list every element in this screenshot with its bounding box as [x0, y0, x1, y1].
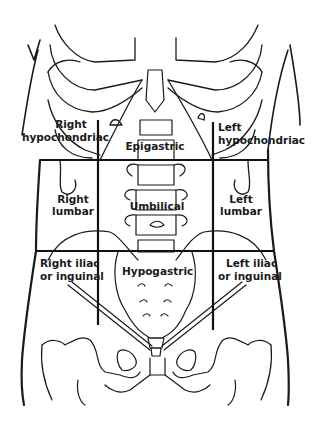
label-right-iliac-line1: Right iliac	[40, 257, 99, 269]
abdominal-regions-diagram: Right hypochondriac Epigastric Left hypo…	[0, 0, 313, 430]
ribcage-right	[168, 25, 262, 194]
label-right-iliac-line2: or inguinal	[40, 270, 104, 282]
ribcage-left	[48, 25, 142, 194]
anatomy-illustration	[0, 0, 313, 430]
label-right-hypochondriac-line1: Right	[43, 118, 99, 130]
ilium-right	[176, 231, 266, 260]
ilium-left	[48, 231, 138, 260]
body-outline-left	[22, 160, 40, 405]
label-right-lumbar-line1: Right	[50, 193, 96, 205]
inguinal-ligament-left	[68, 282, 152, 350]
label-left-hypochondriac-line1: Left	[218, 121, 241, 133]
label-right-hypochondriac-line2: hypochondriac	[22, 131, 102, 143]
label-left-iliac-line1: Left iliac	[226, 257, 277, 269]
label-epigastric: Epigastric	[125, 140, 185, 152]
label-umbilical: Umbilical	[127, 200, 187, 212]
label-left-iliac-line2: or inguinal	[218, 270, 282, 282]
sternum	[146, 70, 164, 112]
label-left-hypochondriac-line2: hypochondriac	[218, 134, 305, 146]
label-hypogastric: Hypogastric	[122, 265, 192, 277]
inguinal-ligament-right	[162, 282, 246, 350]
label-left-lumbar-line1: Left	[218, 193, 264, 205]
label-left-lumbar-line2: lumbar	[218, 205, 264, 217]
label-right-lumbar-line2: lumbar	[50, 205, 96, 217]
